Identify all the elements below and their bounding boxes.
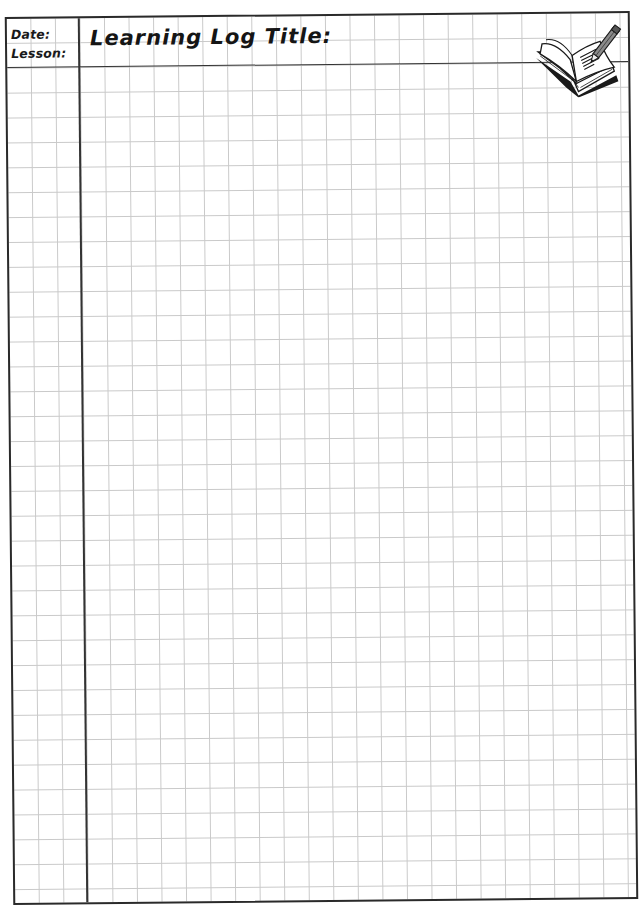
learning-log-page: Date: Lesson: Learning Log Title: xyxy=(5,11,638,905)
open-book-with-pencil-icon xyxy=(526,15,627,98)
lesson-label: Lesson: xyxy=(11,43,77,63)
date-label: Date: xyxy=(11,24,77,44)
header-labels: Date: Lesson: xyxy=(11,24,77,63)
writing-grid-area[interactable] xyxy=(80,63,636,902)
learning-log-title: Learning Log Title: xyxy=(90,24,332,50)
